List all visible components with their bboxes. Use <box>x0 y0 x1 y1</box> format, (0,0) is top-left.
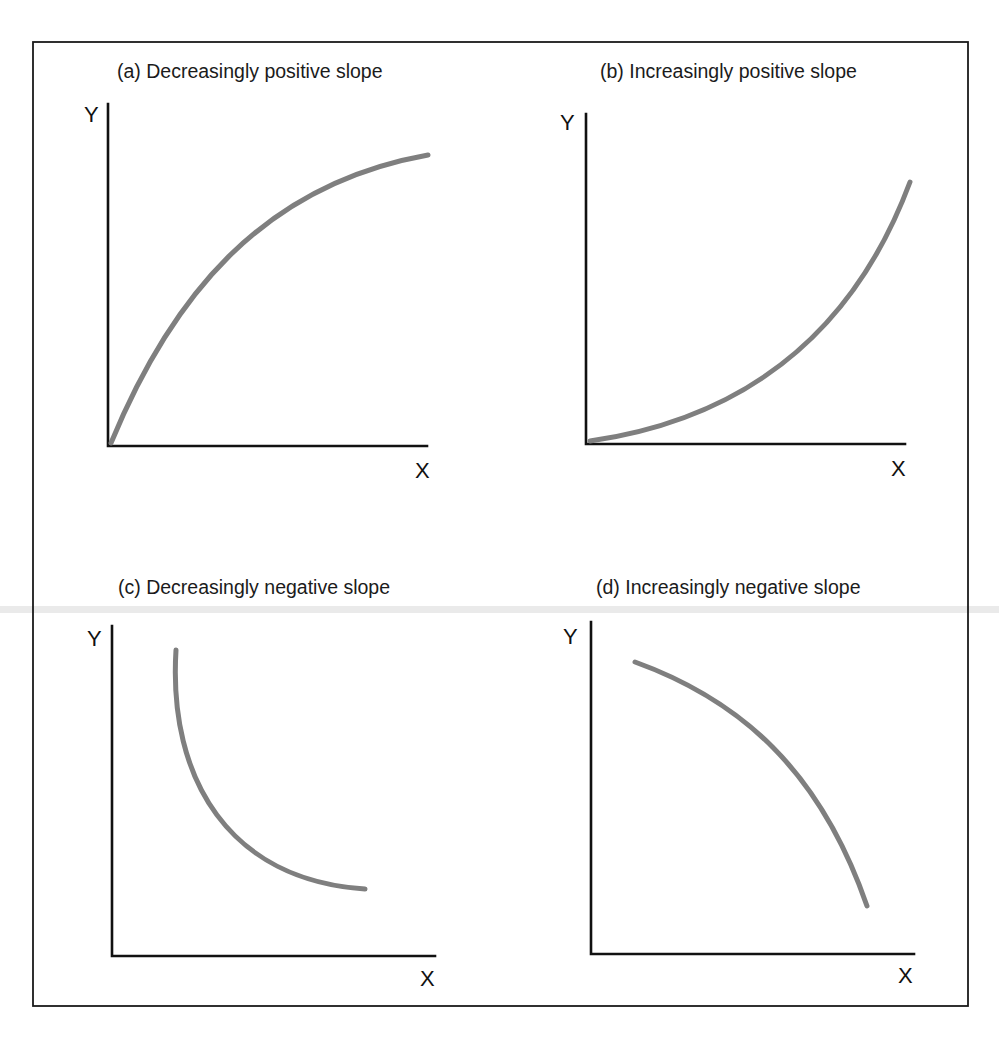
panel-d-curve <box>635 662 867 906</box>
panel-d-y-label: Y <box>563 624 578 649</box>
panel-b-title: (b) Increasingly positive slope <box>600 60 857 82</box>
panel-b-axes <box>586 114 905 444</box>
scan-band <box>0 606 999 613</box>
panel-c-y-label: Y <box>87 626 102 651</box>
panel-a-axes <box>108 104 427 446</box>
panel-c-axes <box>112 626 435 956</box>
panel-b-x-label: X <box>891 456 906 481</box>
panel-c-curve <box>175 650 365 889</box>
panel-a: (a) Decreasingly positive slope Y X <box>84 60 430 483</box>
slope-diagram: (a) Decreasingly positive slope Y X (b) … <box>0 0 999 1043</box>
panel-a-title: (a) Decreasingly positive slope <box>117 60 383 82</box>
panel-d-title: (d) Increasingly negative slope <box>596 576 860 598</box>
panel-c-x-label: X <box>420 966 435 991</box>
panel-b-y-label: Y <box>560 110 575 135</box>
panel-d: (d) Increasingly negative slope Y X <box>563 576 914 988</box>
panel-b: (b) Increasingly positive slope Y X <box>560 60 910 481</box>
panel-c-title: (c) Decreasingly negative slope <box>118 576 390 598</box>
panel-c: (c) Decreasingly negative slope Y X <box>87 576 435 991</box>
panel-b-curve <box>590 182 910 441</box>
panel-a-curve <box>111 155 428 443</box>
figure-frame <box>33 42 968 1006</box>
panel-d-x-label: X <box>898 963 913 988</box>
panel-a-y-label: Y <box>84 102 99 127</box>
panel-a-x-label: X <box>415 458 430 483</box>
